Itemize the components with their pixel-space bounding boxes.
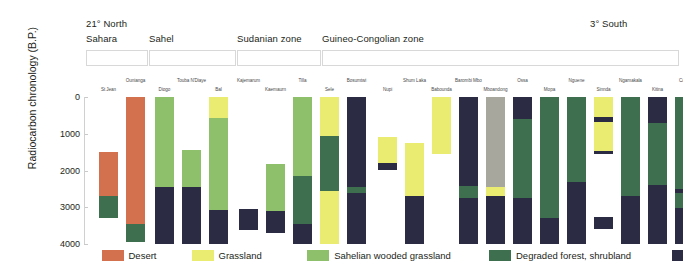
column-segment-sahelian-wooded-grassland	[182, 150, 201, 187]
y-axis-title: Radiocarbon chronology (B.P.)	[26, 18, 38, 178]
site-column[interactable]	[320, 97, 339, 244]
y-tick-label: 2000	[50, 166, 80, 176]
site-column[interactable]	[405, 97, 424, 244]
site-label: Kajemarum	[226, 78, 272, 83]
y-tick-label: 0	[50, 92, 80, 102]
column-segment-grassland	[320, 97, 339, 136]
site-label: Shum Laka	[392, 78, 438, 83]
site-label: Bosumtwi	[334, 78, 380, 83]
site-label: Touba N'Diaye	[169, 78, 215, 83]
legend-item-degraded-forest-shrubland[interactable]: Degraded forest, shrubland	[489, 250, 631, 261]
zone-bracket	[149, 50, 236, 66]
column-segment-degraded-forest-shrubland	[459, 186, 478, 198]
site-label: Bal	[196, 87, 242, 92]
site-label: Barombi Mbo	[446, 78, 492, 83]
column-segment-forest	[621, 196, 640, 244]
site-label: Ngamakala	[608, 78, 654, 83]
column-segment-forest	[293, 224, 312, 244]
column-segment-forest	[347, 97, 366, 187]
legend-label: Sahelian wooded grassland	[334, 250, 451, 261]
site-column[interactable]	[486, 97, 505, 244]
column-segment-grassland	[405, 143, 424, 196]
site-column[interactable]	[540, 97, 559, 244]
zone-label-sahara: Sahara	[86, 33, 117, 44]
zone-bracket	[322, 50, 679, 66]
site-column[interactable]	[675, 97, 683, 244]
column-segment-degraded-forest-shrubland	[621, 97, 640, 196]
column-segment-forest	[459, 97, 478, 186]
column-segment-degraded-forest-shrubland	[513, 119, 532, 198]
zone-label-guineo-congolian-zone: Guineo-Congolian zone	[322, 33, 424, 44]
column-segment-sahelian-wooded-grassland	[209, 118, 228, 210]
legend-item-grassland[interactable]: Grassland	[192, 250, 262, 261]
column-segment-forest	[594, 217, 613, 229]
site-label: Nguene	[554, 78, 600, 83]
column-segment-forest	[405, 196, 424, 244]
site-column[interactable]	[126, 97, 145, 244]
site-column[interactable]	[239, 97, 258, 244]
site-column[interactable]	[99, 97, 118, 244]
site-column[interactable]	[347, 97, 366, 244]
site-column[interactable]	[209, 97, 228, 244]
site-label: Ounianga	[113, 78, 159, 83]
column-segment-forest	[540, 218, 559, 244]
site-column[interactable]	[155, 97, 174, 244]
legend-item-forest[interactable]: Forest	[672, 250, 683, 261]
site-label: Sele	[307, 87, 353, 92]
site-label: Nupi	[365, 87, 411, 92]
site-column[interactable]	[293, 97, 312, 244]
site-column[interactable]	[567, 97, 586, 244]
site-label: Coraf	[662, 78, 683, 83]
legend-label: Grassland	[219, 250, 262, 261]
zone-bracket	[237, 50, 321, 66]
site-column[interactable]	[459, 97, 478, 244]
column-segment-degraded-forest-shrubland	[293, 176, 312, 224]
site-column[interactable]	[432, 97, 451, 244]
column-segment-degraded-forest-shrubland	[99, 196, 118, 218]
legend-swatch-desert	[102, 250, 124, 261]
legend: DesertGrasslandSahelian wooded grassland…	[84, 250, 680, 266]
column-segment-grassland	[432, 97, 451, 154]
column-segment-degraded-forest-shrubland	[675, 193, 683, 208]
site-column[interactable]	[513, 97, 532, 244]
column-segment-forest	[239, 209, 258, 230]
column-segment-forest	[459, 198, 478, 244]
site-column[interactable]	[182, 97, 201, 244]
legend-swatch-forest	[672, 250, 683, 261]
column-segment-forest	[594, 151, 613, 155]
site-column[interactable]	[378, 97, 397, 244]
site-label: Kitina	[635, 87, 681, 92]
column-segment-grassland	[486, 187, 505, 197]
site-column[interactable]	[594, 97, 613, 244]
column-segment-forest	[513, 198, 532, 244]
zone-bracket	[86, 50, 148, 66]
y-tick-label: 1000	[50, 129, 80, 139]
column-segment-grassland	[209, 97, 228, 118]
legend-item-desert[interactable]: Desert	[102, 250, 157, 261]
site-label: Tilla	[280, 78, 326, 83]
column-segment-grassland	[594, 97, 613, 117]
column-segment-forest	[182, 187, 201, 244]
site-column[interactable]	[621, 97, 640, 244]
site-column[interactable]	[266, 97, 285, 244]
legend-item-sahelian-wooded-grassland[interactable]: Sahelian wooded grassland	[307, 250, 451, 261]
zone-label-sudanian-zone: Sudanian zone	[237, 33, 302, 44]
plot-area	[84, 97, 680, 244]
legend-swatch-sahelian-wooded-grassland	[307, 250, 329, 261]
site-label: Diogo	[142, 87, 188, 92]
figure-root: 21° North 3° South SaharaSahelSudanian z…	[0, 0, 683, 270]
site-column[interactable]	[648, 97, 667, 244]
column-segment-degraded-forest-shrubland	[675, 97, 683, 189]
column-segment-forest	[513, 97, 532, 119]
column-segment-degraded-forest-shrubland	[567, 97, 586, 182]
column-segment-forest	[155, 187, 174, 244]
column-segment-degraded-forest-shrubland	[648, 123, 667, 185]
zone-coordinate-right: 3° South	[590, 18, 627, 29]
column-segment-forest	[648, 185, 667, 244]
legend-label: Desert	[129, 250, 157, 261]
column-segment-degraded-forest-shrubland	[320, 136, 339, 191]
column-segment-forest	[648, 97, 667, 123]
column-segment-forest	[486, 196, 505, 244]
legend-label: Degraded forest, shrubland	[516, 250, 631, 261]
legend-swatch-degraded-forest-shrubland	[489, 250, 511, 261]
